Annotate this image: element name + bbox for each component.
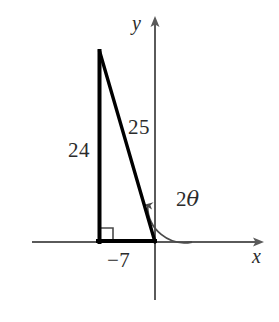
hypotenuse-length-label: 25: [128, 117, 150, 138]
horizontal-leg-length-label: −7: [107, 250, 130, 271]
vertical-leg-length-label: 24: [68, 140, 90, 161]
x-axis-label: x: [252, 246, 261, 266]
diagram-canvas: [0, 0, 279, 322]
geometry-figure: 24 25 −7 2θ y x: [0, 0, 279, 322]
theta-symbol: θ: [187, 187, 200, 211]
triangle-hypotenuse: [100, 51, 156, 242]
y-axis-label: y: [132, 13, 141, 33]
angle-label: 2θ: [176, 189, 199, 210]
angle-label-coefficient: 2: [176, 187, 187, 211]
